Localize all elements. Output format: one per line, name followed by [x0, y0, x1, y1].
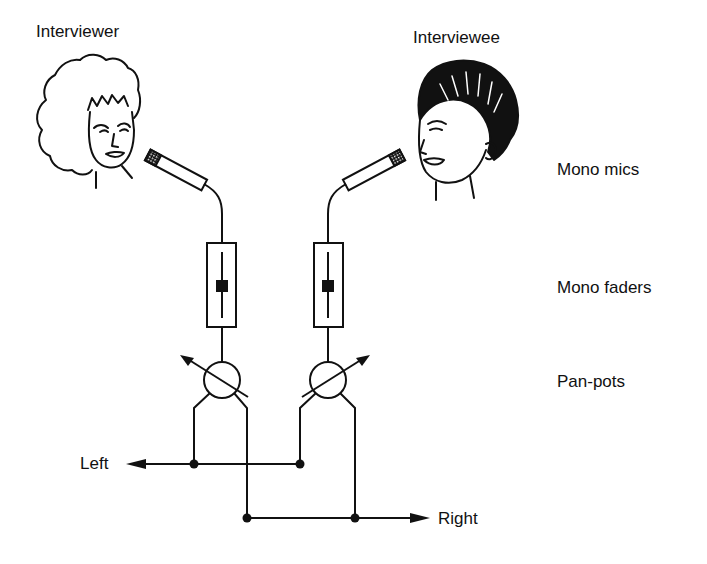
interviewer-face-icon [37, 55, 140, 188]
right-mono-fader-icon [314, 243, 343, 362]
left-pan-pot-icon [180, 355, 248, 517]
right-mono-mic-icon [328, 150, 405, 242]
left-mono-mic-icon [145, 150, 222, 242]
right-output-bus [243, 513, 431, 523]
interviewee-face-icon [419, 61, 519, 200]
left-output-bus [126, 459, 305, 469]
left-mono-fader-icon [207, 243, 236, 362]
signal-flow-diagram [0, 0, 707, 564]
right-pan-pot-icon [300, 355, 370, 517]
